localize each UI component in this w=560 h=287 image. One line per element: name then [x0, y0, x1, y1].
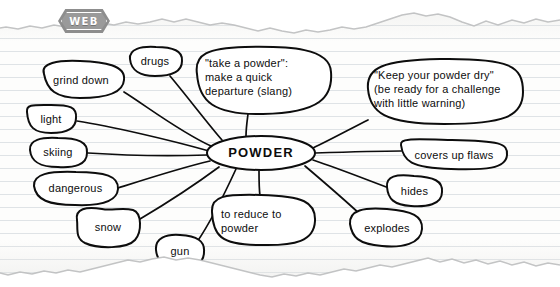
edge-powder-keep-powder-dry [313, 120, 368, 148]
bubble-drugs[interactable] [130, 47, 182, 76]
bubble-group [27, 47, 523, 268]
web-badge: WEB [58, 9, 110, 33]
bubble-take-a-powder[interactable] [197, 47, 332, 114]
edge-powder-snow [140, 167, 219, 219]
word-web-page: WEB POWDER grind down drugs "take a powd… [0, 0, 560, 287]
bubble-gun[interactable] [156, 235, 204, 268]
bubble-covers-up-flaws[interactable] [401, 139, 507, 169]
bubble-explodes[interactable] [350, 208, 422, 246]
word-web-canvas [0, 0, 560, 287]
edge-powder-covers-up-flaws [315, 151, 401, 153]
edge-powder-skiing [88, 153, 207, 155]
edge-powder-grind-down [124, 92, 211, 146]
bubble-to-reduce-to-powder[interactable] [212, 195, 315, 245]
bubble-keep-powder-dry[interactable] [368, 59, 523, 124]
bubble-skiing[interactable] [30, 138, 87, 167]
edge-powder-to-reduce-to-powder [259, 171, 260, 196]
web-badge-label: WEB [58, 9, 110, 33]
bubble-snow[interactable] [77, 208, 140, 247]
edge-powder-hides [313, 160, 389, 188]
bubble-hides[interactable] [387, 175, 442, 206]
edge-powder-light [77, 121, 209, 151]
bubble-light[interactable] [27, 105, 76, 133]
bubble-powder-center[interactable] [207, 136, 315, 170]
bubble-dangerous[interactable] [34, 172, 118, 205]
edge-powder-take-a-powder [246, 114, 248, 136]
bubble-grind-down[interactable] [43, 61, 124, 98]
